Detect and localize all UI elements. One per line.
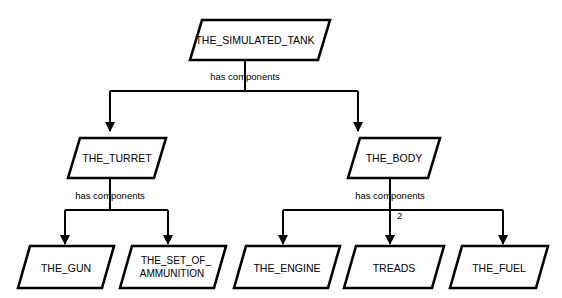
node-label-the-engine: THE_ENGINE [253,262,320,274]
edge-label-turret-has-components: has components [75,190,145,201]
node-the-body[interactable]: THE_BODY [348,138,440,178]
node-the-gun[interactable]: THE_GUN [18,246,114,288]
node-label-the-set-of-ammunition-line2: AMMUNITION [140,268,204,279]
node-the-simulated-tank[interactable]: THE_SIMULATED_TANK [190,20,330,60]
node-label-the-set-of-ammunition-line1: THE_SET_OF_ [141,255,211,266]
node-label-the-simulated-tank: THE_SIMULATED_TANK [195,34,314,46]
node-label-the-body: THE_BODY [366,152,423,164]
node-the-turret[interactable]: THE_TURRET [68,138,166,178]
node-the-engine[interactable]: THE_ENGINE [234,246,340,288]
node-the-fuel[interactable]: THE_FUEL [450,246,548,288]
node-label-treads: TREADS [373,262,416,274]
node-the-set-of-ammunition[interactable]: THE_SET_OF_ AMMUNITION [120,246,226,288]
edge-label-tank-has-components: has components [210,71,280,82]
edge-body-to-children [283,178,503,244]
edge-turret-to-children [65,178,168,244]
node-label-the-fuel: THE_FUEL [472,262,526,274]
tank-decomposition-diagram: has components has components has compon… [0,0,562,298]
node-treads[interactable]: TREADS [344,246,444,288]
diagram-canvas-container: has components has components has compon… [0,0,562,298]
edge-label-body-has-components: has components [355,190,425,201]
node-label-the-turret: THE_TURRET [82,152,152,164]
multiplicity-label-treads: 2 [397,210,402,221]
node-label-the-gun: THE_GUN [41,262,91,274]
